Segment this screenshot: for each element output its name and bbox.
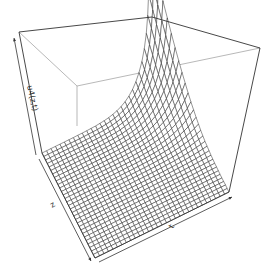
surface-plot: u4(z,t) z t xyxy=(0,0,273,271)
z-axis-label: z xyxy=(49,200,57,210)
t-axis-label: t xyxy=(167,223,176,230)
